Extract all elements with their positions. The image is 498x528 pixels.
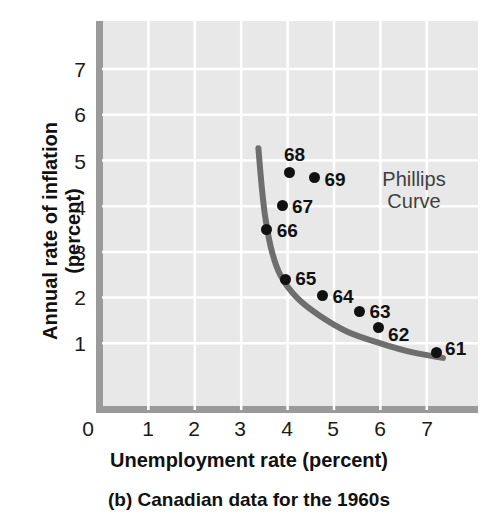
x-tick-3: 3 <box>228 418 252 439</box>
data-point-67 <box>277 200 288 211</box>
phillips-curve-figure: 0 1 2 3 4 5 6 7 1 2 3 4 5 6 7 6162636465… <box>0 0 498 528</box>
x-tick-2: 2 <box>182 418 206 439</box>
phillips-curve-annotation: Phillips Curve <box>354 168 474 213</box>
data-point-label-68: 68 <box>284 145 305 164</box>
x-tick-6: 6 <box>368 418 392 439</box>
y-axis-title-line-2: (percent) <box>62 21 85 441</box>
data-point-label-67: 67 <box>292 197 313 216</box>
x-axis-title: Unemployment rate (percent) <box>0 449 498 472</box>
data-point-65 <box>280 274 291 285</box>
data-point-62 <box>373 322 384 333</box>
data-point-label-61: 61 <box>445 339 466 358</box>
data-point-64 <box>317 290 328 301</box>
data-point-label-66: 66 <box>277 221 298 240</box>
data-point-label-62: 62 <box>388 325 409 344</box>
annotation-line-1: Phillips <box>354 168 474 190</box>
data-point-63 <box>354 306 365 317</box>
x-tick-7: 7 <box>415 418 439 439</box>
x-tick-5: 5 <box>321 418 345 439</box>
data-point-label-64: 64 <box>332 287 353 306</box>
x-tick-1: 1 <box>136 418 160 439</box>
y-axis-title: Annual rate of inflation (percent) <box>39 21 85 441</box>
data-point-61 <box>431 347 442 358</box>
data-point-label-65: 65 <box>295 269 316 288</box>
x-tick-4: 4 <box>275 418 299 439</box>
annotation-line-2: Curve <box>354 190 474 212</box>
data-point-66 <box>261 224 272 235</box>
figure-caption: (b) Canadian data for the 1960s <box>0 489 498 511</box>
y-axis-title-line-1: Annual rate of inflation <box>39 21 62 441</box>
data-point-label-69: 69 <box>325 170 346 189</box>
data-point-label-63: 63 <box>370 302 391 321</box>
